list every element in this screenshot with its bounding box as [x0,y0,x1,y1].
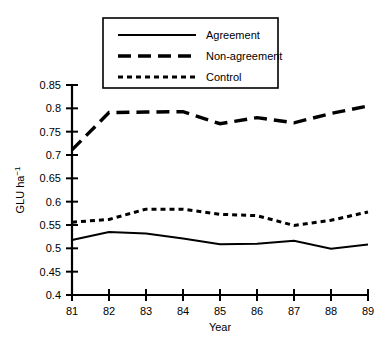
x-tick-label: 86 [251,305,263,317]
x-tick-label: 89 [362,305,374,317]
chart-legend: AgreementNon-agreementControl [103,18,282,88]
x-axis-title: Year [209,321,232,333]
line-chart: 0.40.450.50.550.60.650.70.750.80.85 8182… [0,0,388,343]
legend-label-non-agreement: Non-agreement [206,50,282,62]
x-tick-label: 82 [103,305,115,317]
x-tick-label: 84 [177,305,189,317]
x-tick-label: 85 [214,305,226,317]
y-tick-label: 0.55 [40,219,61,231]
y-tick-label: 0.8 [46,102,61,114]
y-tick-label: 0.75 [40,126,61,138]
y-tick-label: 0.6 [46,196,61,208]
y-tick-label: 0.65 [40,172,61,184]
y-tick-label: 0.7 [46,149,61,161]
x-axis-tick-labels: 818283848586878889 [66,305,374,317]
x-tick-label: 87 [288,305,300,317]
y-axis-title-exponent: −1 [13,166,22,176]
x-tick-label: 88 [325,305,337,317]
y-axis-title-base: GLU ha [14,175,26,214]
y-tick-label: 0.45 [40,266,61,278]
y-tick-label: 0.85 [40,79,61,91]
chart-figure: 0.40.450.50.550.60.650.70.750.80.85 8182… [0,0,388,343]
x-tick-label: 83 [140,305,152,317]
legend-label-agreement: Agreement [206,29,260,41]
y-tick-label: 0.4 [46,289,61,301]
x-tick-label: 81 [66,305,78,317]
legend-label-control: Control [206,71,241,83]
y-tick-label: 0.5 [46,242,61,254]
